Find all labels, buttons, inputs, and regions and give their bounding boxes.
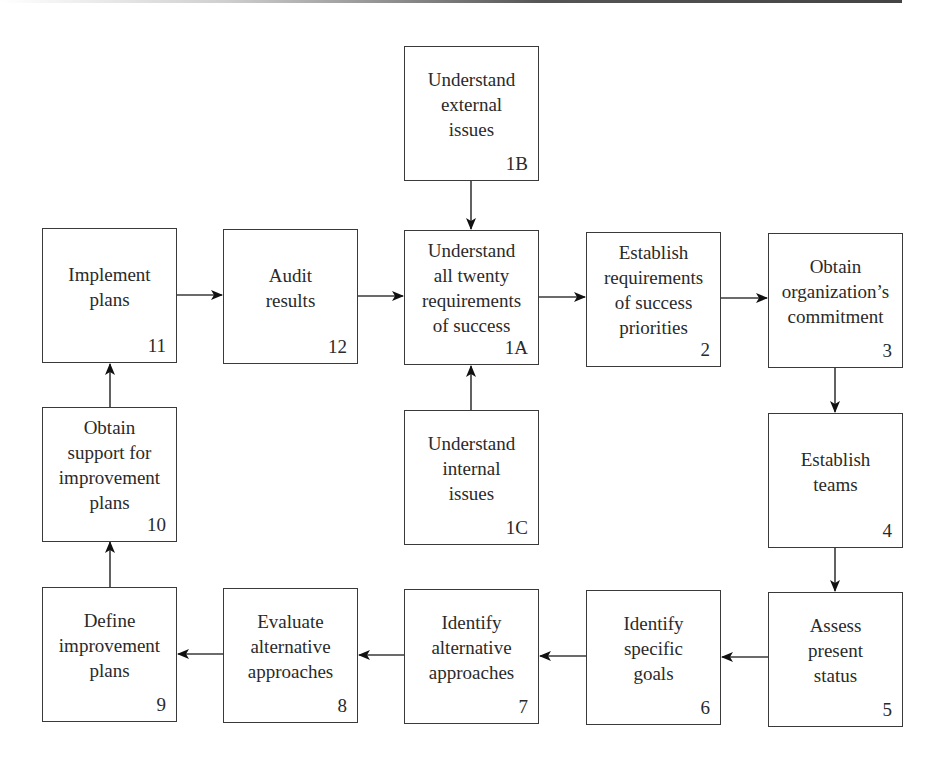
node-number: 1A: [505, 337, 528, 359]
node-number: 9: [157, 694, 167, 716]
node-label: Obtain organization’s commitment: [769, 234, 902, 349]
node-1a-understand-requirements: Understand all twenty requirements of su…: [404, 230, 539, 365]
node-label: Obtain support for improvement plans: [43, 406, 176, 523]
node-9-define-improvement-plans: Define improvement plans 9: [42, 587, 177, 722]
node-number: 10: [147, 514, 166, 536]
node-4-establish-teams: Establish teams 4: [768, 413, 903, 548]
node-11-implement-plans: Implement plans 11: [42, 228, 177, 363]
node-7-identify-alternatives: Identify alternative approaches 7: [404, 589, 539, 724]
node-5-assess-status: Assess present status 5: [768, 592, 903, 727]
node-label: Define improvement plans: [43, 588, 176, 703]
node-6-identify-goals: Identify specific goals 6: [586, 590, 721, 725]
node-number: 6: [701, 697, 711, 719]
node-12-audit-results: Audit results 12: [223, 229, 358, 364]
node-number: 7: [519, 696, 529, 718]
node-number: 8: [338, 695, 348, 717]
node-number: 11: [148, 335, 166, 357]
node-1c-understand-internal-issues: Understand internal issues 1C: [404, 410, 539, 545]
node-label: Establish requirements of success priori…: [587, 231, 720, 348]
node-number: 1C: [506, 517, 528, 539]
node-label: Identify alternative approaches: [405, 590, 538, 705]
node-number: 5: [883, 699, 893, 721]
node-number: 4: [883, 520, 893, 542]
node-number: 3: [883, 340, 893, 362]
node-8-evaluate-alternatives: Evaluate alternative approaches 8: [223, 588, 358, 723]
node-label: Assess present status: [769, 593, 902, 708]
node-label: Understand internal issues: [405, 411, 538, 526]
node-label: Understand external issues: [405, 47, 538, 162]
node-label: Establish teams: [769, 414, 902, 529]
node-3-obtain-commitment: Obtain organization’s commitment 3: [768, 233, 903, 368]
node-label: Identify specific goals: [587, 591, 720, 706]
node-label: Implement plans: [43, 229, 176, 344]
node-number: 12: [328, 336, 347, 358]
node-1b-understand-external-issues: Understand external issues 1B: [404, 46, 539, 181]
node-number: 1B: [506, 153, 528, 175]
node-2-establish-priorities: Establish requirements of success priori…: [586, 232, 721, 367]
node-label: Audit results: [224, 230, 357, 345]
node-10-obtain-support: Obtain support for improvement plans 10: [42, 407, 177, 542]
node-number: 2: [701, 339, 711, 361]
node-label: Evaluate alternative approaches: [224, 589, 357, 704]
node-label: Understand all twenty requirements of su…: [405, 229, 538, 346]
